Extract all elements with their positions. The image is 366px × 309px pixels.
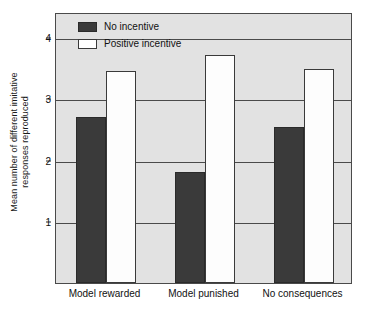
y-tick-label: 2 bbox=[37, 155, 51, 166]
y-axis-label-line1: Mean number of different imitative bbox=[9, 72, 19, 211]
legend-label-no-incentive: No incentive bbox=[104, 21, 159, 32]
bar-no-incentive bbox=[274, 127, 304, 283]
y-axis-label-line2: responses reproduced bbox=[20, 72, 31, 211]
y-axis-ticks: 1234 bbox=[34, 0, 51, 309]
bar-positive-incentive bbox=[106, 71, 136, 283]
x-axis-labels: Model rewardedModel punishedNo consequen… bbox=[55, 288, 352, 306]
bar-no-incentive bbox=[175, 172, 205, 283]
x-tick-label: Model rewarded bbox=[69, 288, 141, 299]
bar-no-incentive bbox=[76, 117, 106, 283]
bar-positive-incentive bbox=[304, 69, 334, 283]
x-tick-label: No consequences bbox=[262, 288, 342, 299]
plot-inner bbox=[56, 14, 351, 283]
legend-item-no-incentive: No incentive bbox=[78, 19, 181, 34]
legend-swatch-light-icon bbox=[78, 39, 97, 49]
y-tick-label: 1 bbox=[37, 217, 51, 228]
legend-label-positive-incentive: Positive incentive bbox=[104, 38, 181, 49]
chart-legend: No incentive Positive incentive bbox=[78, 19, 181, 53]
y-tick-label: 3 bbox=[37, 94, 51, 105]
bar-chart-figure: Mean number of different imitative respo… bbox=[0, 0, 366, 309]
y-tick-label: 4 bbox=[37, 32, 51, 43]
legend-item-positive-incentive: Positive incentive bbox=[78, 36, 181, 51]
plot-area: No incentive Positive incentive bbox=[55, 13, 352, 284]
legend-swatch-dark-icon bbox=[78, 22, 97, 32]
x-tick-label: Model punished bbox=[168, 288, 239, 299]
bar-positive-incentive bbox=[205, 55, 235, 283]
